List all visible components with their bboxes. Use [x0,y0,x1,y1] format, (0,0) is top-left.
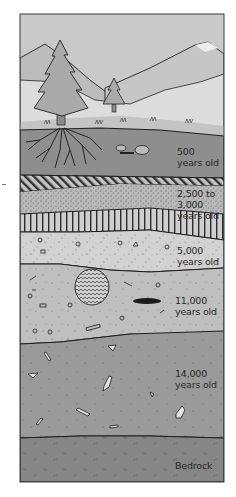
dark-lens [133,298,161,304]
label-500: 500 years old [177,146,219,168]
label-2500-3000: 2,500 to 3,000 years old [177,188,219,221]
tick-mark [2,184,6,185]
layer-bedrock [20,436,224,482]
label-bedrock: Bedrock [175,460,212,471]
rock-large [135,146,149,155]
pit-fill [75,269,109,305]
label-11000: 11,000 years old [175,295,217,317]
rock-small [116,145,126,151]
label-14000: 14,000 years old [175,368,217,390]
soil-profile-diagram: 500 years old 2,500 to 3,000 years old 5… [0,0,236,497]
label-5000: 5,000 years old [177,245,219,267]
